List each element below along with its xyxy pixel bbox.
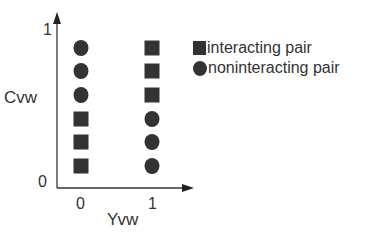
- x-axis-label: Yvw: [107, 212, 138, 228]
- circle-marker: [145, 134, 160, 150]
- x-tick-1: 1: [148, 196, 157, 212]
- square-marker: [74, 135, 89, 150]
- legend-item-interacting: interacting pair: [193, 39, 312, 57]
- square-marker: [145, 64, 160, 79]
- circle-marker: [145, 158, 160, 174]
- x-axis-arrow-icon: [182, 184, 194, 192]
- circle-marker: [74, 63, 89, 79]
- square-marker: [145, 41, 160, 56]
- scatter-plot: [0, 0, 375, 234]
- legend-label: noninteracting pair: [208, 59, 340, 77]
- square-marker: [74, 159, 89, 174]
- legend-item-noninteracting: noninteracting pair: [193, 59, 340, 77]
- square-marker: [145, 88, 160, 103]
- y-axis-label: Cvw: [4, 90, 37, 106]
- circle-marker: [145, 111, 160, 127]
- data-markers: [74, 40, 160, 174]
- y-tick-1: 1: [43, 22, 52, 38]
- square-marker: [74, 112, 89, 127]
- y-tick-0: 0: [38, 174, 47, 190]
- legend-label: interacting pair: [207, 39, 312, 57]
- square-marker-icon: [193, 41, 206, 55]
- circle-marker: [74, 87, 89, 103]
- circle-marker-icon: [193, 61, 207, 76]
- y-axis-arrow-icon: [53, 12, 61, 24]
- x-tick-0: 0: [76, 196, 85, 212]
- circle-marker: [74, 40, 89, 56]
